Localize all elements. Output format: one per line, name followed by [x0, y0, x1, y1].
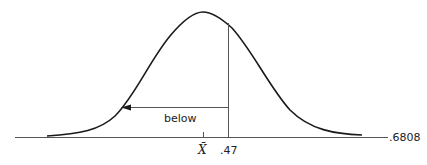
mean-label: X̄: [197, 142, 207, 157]
value-label: .47: [220, 144, 238, 157]
arrow-head-icon: [121, 105, 131, 111]
normal-curve-diagram: below X̄ .47 .6808: [0, 0, 427, 165]
bell-curve: [47, 12, 362, 136]
right-value-label: .6808: [389, 131, 421, 144]
below-label: below: [164, 112, 197, 125]
